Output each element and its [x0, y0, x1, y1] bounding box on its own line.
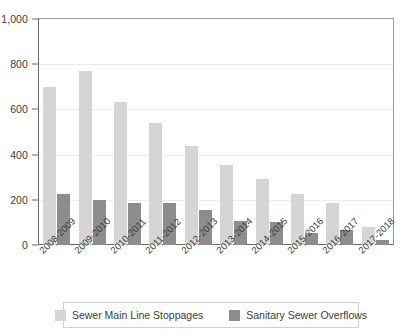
- bar-group: [251, 19, 286, 245]
- bar-group: [110, 19, 145, 245]
- bar-group: [39, 19, 74, 245]
- legend-swatch-sewer-main-line-stoppages: [55, 310, 66, 321]
- y-tick-label: 400: [10, 149, 28, 161]
- y-tick-label: 800: [10, 58, 28, 70]
- chart-legend: Sewer Main Line Stoppages Sanitary Sewer…: [63, 302, 359, 328]
- legend-label-sanitary-sewer-overflows: Sanitary Sewer Overflows: [246, 309, 367, 321]
- bar[interactable]: [43, 87, 56, 245]
- bar-chart: 02004006008001,000 2008-20092009-2010201…: [0, 0, 401, 335]
- bars-layer: [39, 19, 393, 245]
- bar[interactable]: [114, 102, 127, 246]
- y-tick-label: 0: [22, 239, 28, 251]
- bar-group: [74, 19, 109, 245]
- bar-group: [145, 19, 180, 245]
- legend-swatch-sanitary-sewer-overflows: [229, 310, 240, 321]
- bar-group: [358, 19, 393, 245]
- y-axis: 02004006008001,000: [0, 0, 38, 265]
- bar-group: [287, 19, 322, 245]
- bar-group: [322, 19, 357, 245]
- y-tick-label: 1,000: [1, 13, 28, 25]
- legend-item-1[interactable]: Sanitary Sewer Overflows: [229, 309, 367, 321]
- bar-group: [216, 19, 251, 245]
- legend-item-0[interactable]: Sewer Main Line Stoppages: [55, 309, 203, 321]
- x-axis: 2008-20092009-20102010-20112011-20122012…: [39, 246, 393, 296]
- bar[interactable]: [149, 123, 162, 245]
- bar-group: [181, 19, 216, 245]
- bar[interactable]: [79, 71, 92, 245]
- y-tick-label: 600: [10, 103, 28, 115]
- y-tick-label: 200: [10, 194, 28, 206]
- legend-label-sewer-main-line-stoppages: Sewer Main Line Stoppages: [72, 309, 203, 321]
